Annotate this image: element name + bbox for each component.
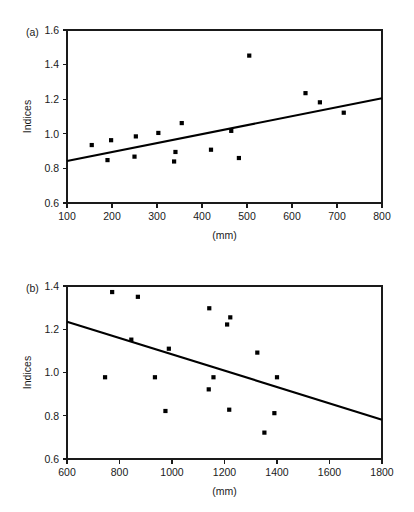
- data-point: [172, 159, 176, 163]
- x-tick-label: 700: [328, 210, 346, 222]
- data-point: [105, 158, 109, 162]
- y-tick-label: 1.0: [44, 366, 59, 378]
- data-point: [318, 100, 322, 104]
- figure-container: (a)0.60.81.01.21.41.61002003004005006007…: [0, 0, 414, 512]
- panel-label-b: (b): [26, 282, 39, 294]
- x-tick-label: 600: [58, 466, 76, 478]
- x-axis-title-b: (mm): [212, 485, 237, 497]
- x-tick-label: 1800: [370, 466, 394, 478]
- x-tick-label: 400: [193, 210, 211, 222]
- data-point: [109, 138, 113, 142]
- y-tick-label: 0.6: [44, 197, 59, 209]
- y-tick-label: 1.4: [44, 280, 59, 292]
- data-point: [237, 156, 241, 160]
- data-point: [211, 375, 215, 379]
- x-tick-label: 800: [111, 466, 129, 478]
- data-point: [342, 111, 346, 115]
- y-tick-label: 1.2: [44, 323, 59, 335]
- y-axis-b: 0.60.81.01.21.4: [44, 280, 67, 465]
- data-point: [225, 322, 229, 326]
- data-point: [90, 143, 94, 147]
- scatter-plot-b: (b)0.60.81.01.21.46008001000120014001600…: [0, 256, 414, 512]
- x-axis-a: 100200300400500600700800: [58, 203, 391, 222]
- data-point: [180, 121, 184, 125]
- plot-frame-a: [67, 30, 382, 203]
- x-tick-label: 500: [238, 210, 256, 222]
- x-axis-title-a: (mm): [212, 229, 237, 241]
- data-point: [255, 351, 259, 355]
- y-tick-label: 0.6: [44, 453, 59, 465]
- data-point: [129, 338, 133, 342]
- x-tick-label: 300: [148, 210, 166, 222]
- panel-label-a: (a): [26, 26, 39, 38]
- plot-frame-b: [67, 286, 382, 459]
- data-point: [110, 290, 114, 294]
- x-tick-label: 600: [283, 210, 301, 222]
- data-point: [103, 375, 107, 379]
- x-tick-label: 1200: [213, 466, 237, 478]
- data-point: [229, 129, 233, 133]
- data-point: [156, 131, 160, 135]
- data-point: [153, 375, 157, 379]
- data-points-a: [90, 54, 346, 164]
- y-tick-label: 1.4: [44, 58, 59, 70]
- data-point: [132, 155, 136, 159]
- y-tick-label: 0.8: [44, 410, 59, 422]
- data-point: [247, 54, 251, 58]
- x-tick-label: 1000: [160, 466, 184, 478]
- chart-panel-b: (b)0.60.81.01.21.46008001000120014001600…: [0, 256, 414, 512]
- data-point: [207, 387, 211, 391]
- chart-panel-a: (a)0.60.81.01.21.41.61002003004005006007…: [0, 0, 414, 256]
- x-axis-b: 60080010001200140016001800: [58, 459, 394, 478]
- x-tick-label: 1400: [265, 466, 289, 478]
- x-tick-label: 200: [103, 210, 121, 222]
- y-tick-label: 1.2: [44, 93, 59, 105]
- trend-line-b: [67, 322, 382, 420]
- x-tick-label: 100: [58, 210, 76, 222]
- data-point: [134, 134, 138, 138]
- y-tick-label: 0.8: [44, 162, 59, 174]
- data-point: [167, 347, 171, 351]
- y-tick-label: 1.0: [44, 128, 59, 140]
- scatter-plot-a: (a)0.60.81.01.21.41.61002003004005006007…: [0, 0, 414, 256]
- x-tick-label: 800: [373, 210, 391, 222]
- data-point: [207, 306, 211, 310]
- y-axis-title-a: Indices: [21, 100, 33, 133]
- y-tick-label: 1.6: [44, 24, 59, 36]
- y-axis-a: 0.60.81.01.21.41.6: [44, 24, 67, 209]
- x-tick-label: 1600: [318, 466, 342, 478]
- data-point: [275, 375, 279, 379]
- data-point: [228, 315, 232, 319]
- data-point: [303, 91, 307, 95]
- data-point: [136, 295, 140, 299]
- data-point: [262, 431, 266, 435]
- data-points-b: [103, 290, 279, 435]
- trend-line-a: [67, 98, 382, 161]
- data-point: [173, 150, 177, 154]
- data-point: [227, 408, 231, 412]
- data-point: [209, 148, 213, 152]
- y-axis-title-b: Indices: [21, 356, 33, 389]
- data-point: [272, 411, 276, 415]
- data-point: [163, 409, 167, 413]
